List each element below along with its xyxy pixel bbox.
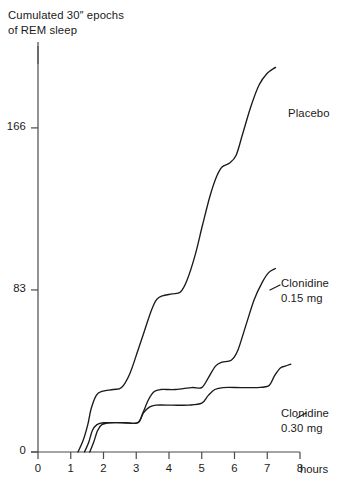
x-tick-label-2: 2 bbox=[96, 462, 112, 474]
series-label-clonidine-030-line1: Clonidine bbox=[281, 407, 329, 419]
rem-sleep-chart: Cumulated 30″ epochsof REM sleep Placebo… bbox=[0, 0, 351, 485]
x-tick-label-0: 0 bbox=[30, 462, 46, 474]
series-label-clonidine-030-line2: 0.30 mg bbox=[281, 422, 323, 434]
x-tick-label-7: 7 bbox=[259, 462, 275, 474]
series-label-clonidine-030: Clonidine0.30 mg bbox=[281, 406, 329, 435]
series-line-placebo bbox=[78, 67, 275, 452]
series-line-clonidine-0-15-mg bbox=[85, 268, 276, 452]
leader-clonidine-015 bbox=[270, 285, 280, 290]
x-axis-unit-label: hours bbox=[300, 463, 328, 475]
x-tick-label-4: 4 bbox=[161, 462, 177, 474]
x-tick-label-3: 3 bbox=[128, 462, 144, 474]
x-tick-label-1: 1 bbox=[63, 462, 79, 474]
x-tick-label-5: 5 bbox=[194, 462, 210, 474]
series-label-clonidine-015-line2: 0.15 mg bbox=[281, 292, 323, 304]
series-line-clonidine-0-30-mg bbox=[90, 364, 291, 452]
y-tick-label-0: 0 bbox=[0, 444, 26, 456]
x-tick-label-6: 6 bbox=[227, 462, 243, 474]
series-label-clonidine-015: Clonidine0.15 mg bbox=[281, 276, 329, 305]
y-tick-label-166: 166 bbox=[0, 120, 26, 132]
series-label-clonidine-015-line1: Clonidine bbox=[281, 277, 329, 289]
series-label-placebo-line1: Placebo bbox=[288, 107, 330, 119]
series-label-placebo: Placebo bbox=[288, 106, 330, 121]
y-tick-label-83: 83 bbox=[0, 282, 26, 294]
